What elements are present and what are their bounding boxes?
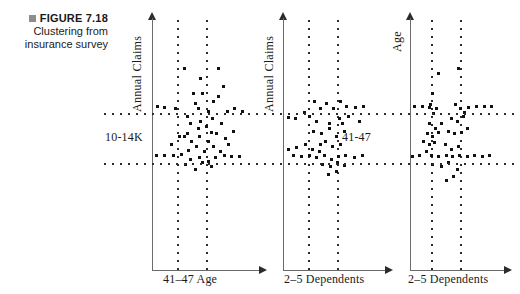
data-point [347,115,350,118]
data-point [183,135,186,138]
figure-root: FIGURE 7.18 Clustering from insurance su… [0,0,520,294]
data-point [456,120,459,123]
data-point [195,145,198,148]
data-point [201,92,204,95]
data-point [440,165,443,168]
data-point [488,154,491,157]
data-point [319,107,322,110]
data-point [214,156,217,159]
data-point [174,107,177,110]
data-point [339,100,342,103]
data-point [431,92,434,95]
data-point [452,175,455,178]
chart-3-x-axis-arrow [504,266,512,274]
data-point [338,117,341,120]
data-point [294,117,297,120]
data-point [467,106,470,109]
data-point [328,127,331,130]
data-point [437,155,440,158]
data-point [483,105,486,108]
data-point [335,170,338,173]
data-point [431,135,434,138]
data-point [186,132,189,135]
data-point [199,77,202,80]
data-point [313,100,316,103]
data-point [238,155,241,158]
chart-2-y-axis-label: Annual Claims [262,36,277,112]
figure-number: FIGURE 7.18 [40,12,108,24]
data-point [425,150,428,153]
data-point [211,117,214,120]
data-point [324,140,327,143]
chart-3-x-axis-label: 2–5 Dependents [408,272,488,287]
data-point [170,143,173,146]
data-point [308,115,311,118]
data-point [292,154,295,157]
data-point [343,130,346,133]
data-point [440,122,443,125]
data-point [189,122,192,125]
data-point [203,150,206,153]
data-point [460,131,463,134]
data-point [190,140,193,143]
data-point [287,148,290,151]
data-point [466,155,469,158]
data-point [215,132,218,135]
data-point [332,107,335,110]
data-point [315,120,318,123]
chart-2-x-axis [283,270,386,271]
data-point [186,115,189,118]
data-point [445,154,448,157]
data-point [430,154,433,157]
data-point [481,155,484,158]
data-point [311,148,314,151]
shared-guide-h-2 [104,163,516,165]
data-point [194,168,197,171]
data-point [462,115,465,118]
data-point [212,100,215,103]
data-point [233,107,236,110]
chart-1-x-axis-label: 41–47 Age [163,272,217,287]
data-point [459,107,462,110]
data-point [210,165,213,168]
data-point [411,155,414,158]
figure-title-row: FIGURE 7.18 [4,12,108,25]
data-point [362,105,365,108]
data-point [194,102,197,105]
data-point [422,140,425,143]
data-point [183,67,186,70]
data-point [428,122,431,125]
data-point [335,135,338,138]
data-point [217,67,220,70]
data-point [220,122,223,125]
data-point [331,145,334,148]
data-point [163,106,166,109]
chart-2-points [283,18,386,270]
data-point [300,155,303,158]
data-point [329,165,332,168]
data-point [172,154,175,157]
data-point [344,154,347,157]
data-point [445,179,448,182]
data-point [475,105,478,108]
data-point [330,158,333,161]
data-point [207,140,210,143]
data-point [224,137,227,140]
chart-3-x-axis [410,270,505,271]
data-point [435,107,438,110]
caption-line-2: insurance survey [4,38,108,51]
data-point [320,132,323,135]
data-point [361,154,364,157]
data-point [232,130,235,133]
chart-1-points [152,18,260,270]
data-point [345,105,348,108]
data-point [450,117,453,120]
data-point [457,67,460,70]
data-point [199,120,202,123]
figure-caption: FIGURE 7.18 Clustering from insurance su… [4,12,108,51]
data-point [308,154,311,157]
data-point [287,116,290,119]
data-point [156,105,159,108]
data-point [454,103,457,106]
data-point [337,155,340,158]
